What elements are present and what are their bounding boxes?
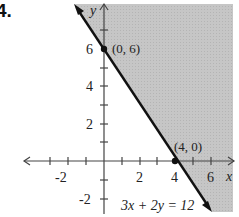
- x-tick-4: 4: [171, 170, 178, 185]
- y-tick-neg2: -2: [79, 192, 91, 207]
- y-tick-2: 2: [86, 117, 93, 132]
- x-tick-2: 2: [136, 170, 143, 185]
- y-tick-6: 6: [86, 42, 93, 57]
- x-tick-6: 6: [207, 170, 214, 185]
- equation-label: 3x + 2y = 12: [120, 198, 194, 213]
- x-axis-label: x: [225, 169, 233, 184]
- y-tick-4: 4: [86, 79, 93, 94]
- point-label-4-0: (4, 0): [174, 139, 202, 154]
- point-label-0-6: (0, 6): [112, 41, 140, 56]
- point-4-0: [172, 158, 178, 164]
- y-axis-label: y: [88, 3, 97, 18]
- point-0-6: [101, 46, 107, 52]
- graph: y x 6 4 2 -2 -2 2 4 6 (0, 6) (4, 0) 3x +…: [0, 0, 239, 217]
- x-tick-neg2: -2: [55, 170, 67, 185]
